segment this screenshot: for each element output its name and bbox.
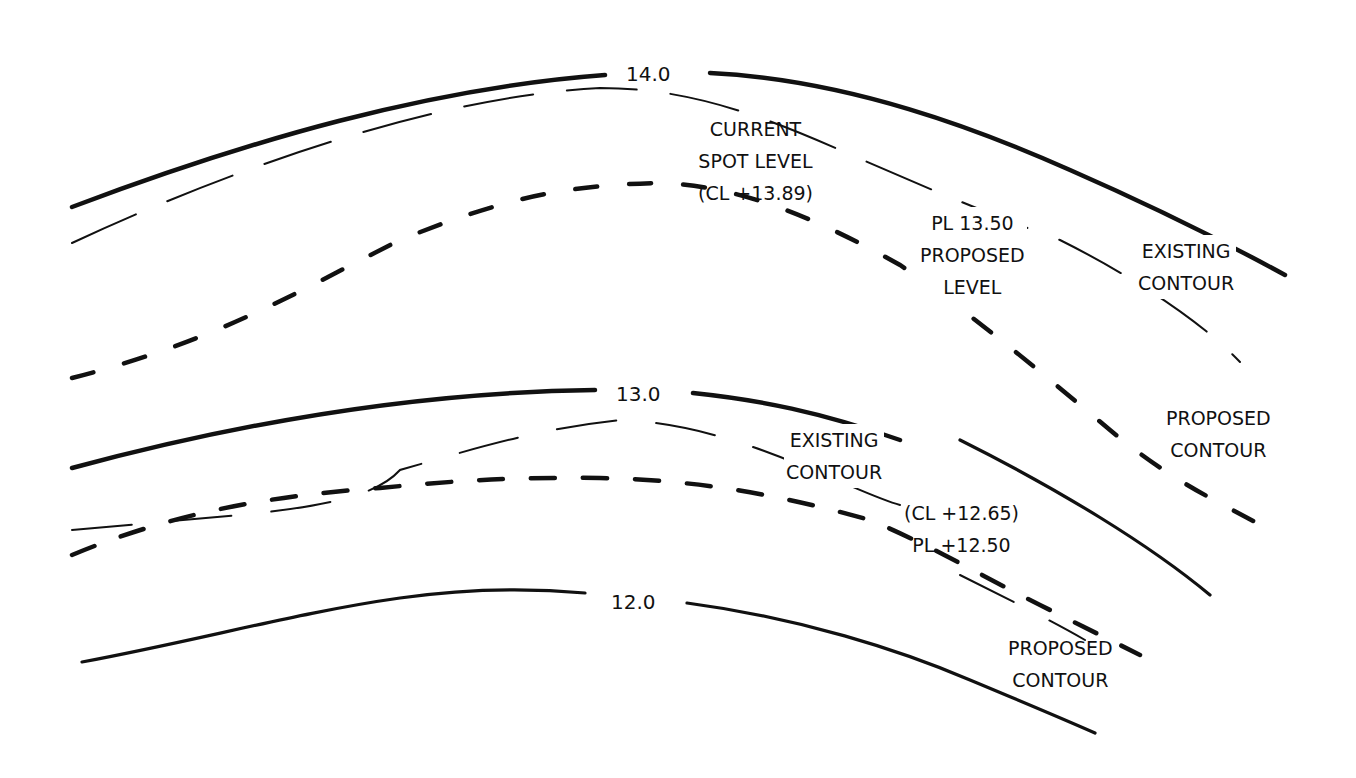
contour-diagram [0, 0, 1356, 778]
annotation-line: EXISTING [1138, 235, 1234, 267]
proposed-level-annotation: PL 13.50 PROPOSED LEVEL [918, 207, 1027, 303]
annotation-line: PROPOSED [920, 239, 1025, 271]
annotation-line: PROPOSED [1166, 402, 1271, 434]
proposed-contour-lower-label: PROPOSED CONTOUR [1006, 632, 1115, 696]
annotation-line: CONTOUR [786, 456, 882, 488]
annotation-line: CONTOUR [1166, 434, 1271, 466]
existing-contour-upper [72, 88, 1240, 362]
contour-label-12: 12.0 [609, 590, 658, 614]
proposed-contour-upper [72, 183, 1255, 522]
annotation-line: LEVEL [920, 271, 1025, 303]
annotation-line: SPOT LEVEL [698, 145, 813, 177]
existing-contour-upper-label: EXISTING CONTOUR [1136, 235, 1236, 299]
annotation-line: CONTOUR [1138, 267, 1234, 299]
annotation-line: PL 13.50 [920, 207, 1025, 239]
annotation-line: (CL +13.89) [698, 177, 813, 209]
contour-line-12 [82, 590, 585, 662]
existing-contour-lower-tail [960, 575, 1085, 640]
contour-line-13 [72, 390, 595, 468]
existing-contour-lower-label: EXISTING CONTOUR [784, 424, 884, 488]
contour-label-14: 14.0 [624, 62, 673, 86]
annotation-line: EXISTING [786, 424, 882, 456]
contour-label-13: 13.0 [614, 382, 663, 406]
annotation-line: PROPOSED [1008, 632, 1113, 664]
spot-levels-lower-label: (CL +12.65) PL +12.50 [902, 497, 1021, 561]
proposed-contour-upper-label: PROPOSED CONTOUR [1164, 402, 1273, 466]
current-spot-level-annotation: CURRENT SPOT LEVEL (CL +13.89) [696, 113, 815, 209]
annotation-line: CURRENT [698, 113, 813, 145]
annotation-line: CONTOUR [1008, 664, 1113, 696]
annotation-line: PL +12.50 [904, 529, 1019, 561]
annotation-line: (CL +12.65) [904, 497, 1019, 529]
